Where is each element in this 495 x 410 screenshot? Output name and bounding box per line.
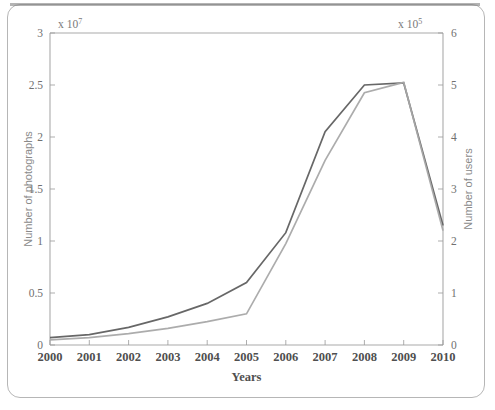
series-line-users bbox=[50, 82, 443, 339]
series-line-photographs bbox=[50, 83, 443, 338]
x-tick-label: 2004 bbox=[195, 350, 221, 364]
x-tick-label: 2001 bbox=[77, 350, 102, 364]
x-axis-title: Years bbox=[232, 370, 262, 384]
left-axis-exponent-power: 7 bbox=[78, 17, 82, 26]
right-tick-label: 6 bbox=[451, 27, 457, 39]
axes-group bbox=[50, 33, 443, 345]
figure-container: 00.511.522.53012345620002001200220032004… bbox=[0, 0, 495, 410]
right-tick-label: 1 bbox=[451, 287, 457, 299]
x-tick-label: 2007 bbox=[313, 350, 338, 364]
labels-group: 00.511.522.53012345620002001200220032004… bbox=[22, 17, 474, 384]
series-group bbox=[50, 82, 443, 339]
plot-area: 00.511.522.53012345620002001200220032004… bbox=[0, 0, 495, 410]
x-tick-label: 2009 bbox=[391, 350, 416, 364]
left-axis-title: Number of photographs bbox=[22, 131, 34, 247]
right-tick-label: 5 bbox=[451, 79, 457, 91]
right-tick-label: 4 bbox=[451, 131, 457, 143]
right-tick-label: 2 bbox=[451, 235, 457, 247]
x-tick-label: 2003 bbox=[155, 350, 180, 364]
x-tick-label: 2010 bbox=[431, 350, 456, 364]
right-axis-exponent: x 105 bbox=[398, 17, 422, 30]
x-tick-label: 2000 bbox=[38, 350, 63, 364]
x-tick-label: 2008 bbox=[352, 350, 377, 364]
x-tick-label: 2002 bbox=[116, 350, 141, 364]
left-axis-exponent: x 107 bbox=[58, 17, 82, 30]
right-axis-exponent-power: 5 bbox=[418, 17, 422, 26]
x-tick-label: 2006 bbox=[273, 350, 298, 364]
right-axis-title: Number of users bbox=[462, 148, 474, 230]
left-tick-label: 3 bbox=[37, 27, 43, 39]
x-tick-label: 2005 bbox=[234, 350, 259, 364]
left-tick-label: 2 bbox=[37, 131, 43, 143]
left-tick-label: 2.5 bbox=[29, 79, 44, 91]
left-tick-label: 0.5 bbox=[29, 287, 44, 299]
dual-axis-line-chart: 00.511.522.53012345620002001200220032004… bbox=[0, 0, 495, 410]
right-tick-label: 3 bbox=[451, 183, 457, 195]
left-tick-label: 1 bbox=[37, 235, 43, 247]
